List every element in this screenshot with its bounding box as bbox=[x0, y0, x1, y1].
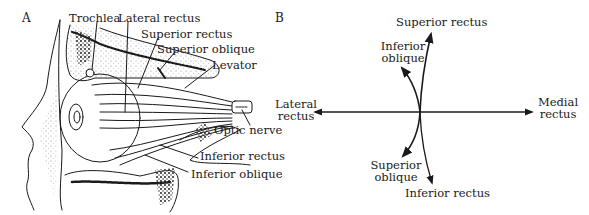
label-b-inferior-rectus: Inferior rectus bbox=[405, 187, 490, 200]
label-b-medial-rectus-line2: rectus bbox=[533, 108, 583, 121]
label-b-superior-oblique-line2: oblique bbox=[368, 171, 424, 184]
label-b-inferior-oblique-line2: oblique bbox=[378, 52, 428, 65]
panel-b-letter: B bbox=[275, 12, 284, 25]
label-b-superior-rectus: Superior rectus bbox=[396, 16, 487, 29]
label-b-lateral-rectus-line2: rectus bbox=[272, 110, 320, 123]
